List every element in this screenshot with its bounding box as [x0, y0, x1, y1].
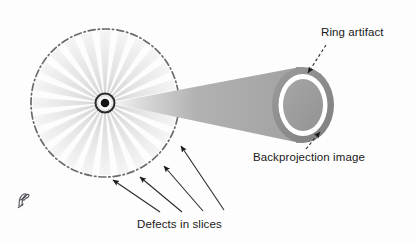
defects-in-slices-label: Defects in slices — [137, 218, 222, 231]
defect-leader-1 — [113, 180, 160, 212]
figure-container: Ring artifact Backprojection image Defec… — [0, 0, 415, 243]
corner-scan-mark — [16, 191, 32, 209]
defect-leader-4 — [181, 146, 224, 210]
ring-artifact-label: Ring artifact — [321, 26, 384, 39]
backprojection-disc — [272, 67, 334, 143]
ring-artifact-leader — [308, 45, 326, 73]
backprojection-image-label: Backprojection image — [253, 151, 365, 164]
defect-leader-2 — [140, 177, 182, 212]
defect-leader-3 — [164, 166, 203, 211]
disc-core — [283, 79, 323, 131]
